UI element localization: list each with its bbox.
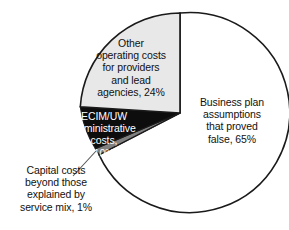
pie-chart: Business plan assumptions that proved fa…: [0, 0, 289, 230]
slice-label-business-plan-assumptions: Business plan assumptions that proved fa…: [185, 96, 279, 145]
slice-label-other-operating-costs: Other operating costs for providers and …: [84, 37, 178, 98]
slice-label-ecim-uw-administrative-costs: ECIM/UW administrative costs, 10%: [62, 110, 146, 159]
slice-label-capital-costs: Capital costs beyond those explained by …: [2, 164, 110, 213]
